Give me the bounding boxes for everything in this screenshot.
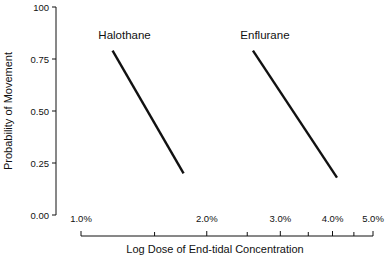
x-axis-title: Log Dose of End-tidal Concentration <box>126 243 303 255</box>
x-tick-label: 3.0% <box>269 213 291 224</box>
y-axis-title: Probability of Movement <box>2 52 14 170</box>
x-tick-label: 1.0% <box>70 213 92 224</box>
x-tick-label: 2.0% <box>196 213 218 224</box>
x-tick-label: 5.0% <box>362 213 384 224</box>
x-ticks: 1.0%2.0%3.0%4.0%5.0% <box>70 213 384 236</box>
y-tick-label: 100 <box>33 2 49 13</box>
y-ticks: 0.000.250.500.75100 <box>31 2 57 221</box>
y-tick-label: 0.25 <box>31 158 50 169</box>
y-tick-label: 0.00 <box>31 210 50 221</box>
series-label-halothane: Halothane <box>98 29 150 41</box>
series-line-halothane <box>113 51 184 174</box>
chart: 0.000.250.500.75100 Probability of Movem… <box>0 0 390 259</box>
series-group: HalothaneEnflurane <box>98 29 337 178</box>
y-tick-label: 0.75 <box>31 54 50 65</box>
series-line-enflurane <box>253 51 337 178</box>
x-tick-label: 4.0% <box>322 213 344 224</box>
series-label-enflurane: Enflurane <box>240 29 289 41</box>
y-tick-label: 0.50 <box>31 106 50 117</box>
